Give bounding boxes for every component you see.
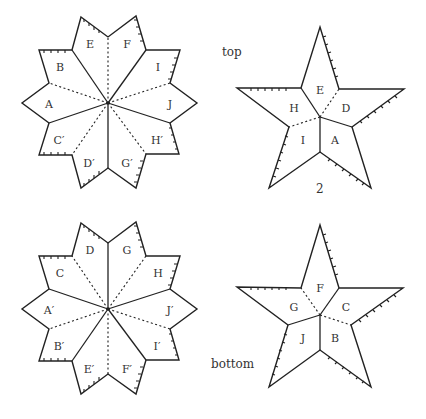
star-label: H <box>289 102 299 115</box>
caption-bottom: bottom <box>211 357 255 371</box>
flower-label: C′ <box>54 134 65 147</box>
star-label: I <box>301 134 305 147</box>
flower-label: G′ <box>121 157 133 170</box>
figure-number: 2 <box>316 182 324 196</box>
star-label: G <box>290 301 299 314</box>
flower-label: D′ <box>83 157 95 170</box>
top-star-outline <box>237 27 404 188</box>
flower-label: B <box>56 61 64 74</box>
star-label: E <box>316 84 324 97</box>
top-star: E D A I H <box>237 27 404 188</box>
star-label: A <box>330 134 340 147</box>
flower-label: H′ <box>151 134 164 147</box>
bottom-star-outline <box>237 225 403 387</box>
hatch-marks <box>44 19 178 186</box>
top-flower: E F I J H′ G′ D′ C′ A B <box>22 16 197 188</box>
star-label: B <box>331 332 339 345</box>
flower-label: A′ <box>43 304 55 317</box>
flower-label: F <box>123 38 131 51</box>
flower-label: H <box>153 267 163 280</box>
flower-label: I <box>156 61 160 74</box>
star-label: C <box>342 301 350 314</box>
bottom-star: F C B J G <box>237 225 403 387</box>
flower-label: B′ <box>54 340 65 353</box>
flower-label: J′ <box>166 304 174 317</box>
flower-label: I′ <box>154 340 161 353</box>
flower-label: J <box>167 98 172 111</box>
flower-label: E′ <box>84 363 95 376</box>
flower-label: G <box>123 244 132 257</box>
flower-label: F′ <box>122 363 133 376</box>
star-label: J <box>300 332 305 345</box>
flower-label: A <box>44 98 54 111</box>
star-label: D <box>342 102 351 115</box>
flower-label: D <box>86 244 95 257</box>
caption-top: top <box>222 45 242 59</box>
folding-diagram: E F I J H′ G′ D′ C′ A B D G H J′ I′ F′ E… <box>0 0 426 419</box>
star-label: F <box>316 282 324 295</box>
flower-label: C <box>56 267 64 280</box>
flower-label: E <box>86 38 94 51</box>
bottom-flower: D G H J′ I′ F′ E′ B′ A′ C <box>22 222 197 394</box>
